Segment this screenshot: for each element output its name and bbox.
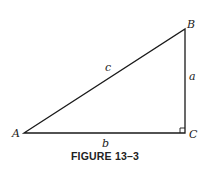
right-angle-marker xyxy=(180,128,185,133)
side-label-b: b xyxy=(102,137,109,150)
vertex-label-a-point: A xyxy=(11,127,20,140)
side-label-a: a xyxy=(189,70,196,83)
side-label-c: c xyxy=(105,61,111,74)
vertex-label-c-point: C xyxy=(189,128,198,141)
vertex-label-b-point: B xyxy=(186,18,195,31)
right-triangle-diagram: A B C a b c FIGURE 13–3 xyxy=(0,0,211,171)
triangle xyxy=(24,29,185,133)
figure-caption: FIGURE 13–3 xyxy=(71,150,139,162)
